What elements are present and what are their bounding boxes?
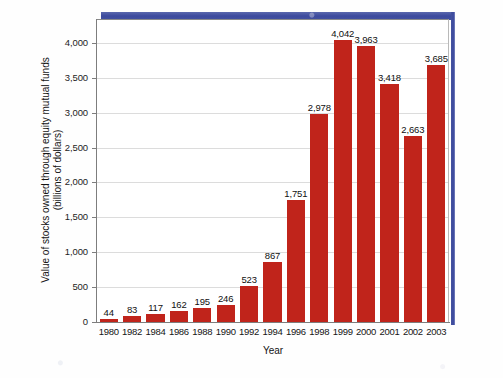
- y-tick-mark: [92, 287, 96, 288]
- bar-value-label: 246: [206, 293, 245, 304]
- bar: [404, 136, 422, 322]
- bar: [380, 84, 398, 322]
- y-axis-title: Value of stocks owned through equity mut…: [40, 20, 64, 320]
- bar: [287, 200, 305, 322]
- bar-value-label: 3,685: [417, 53, 456, 64]
- y-axis-title-line2: (billions of dollars): [52, 20, 64, 320]
- x-axis-line: [96, 322, 450, 323]
- bar: [193, 308, 211, 322]
- y-tick-mark: [92, 322, 96, 323]
- bar-value-label: 3,963: [346, 34, 385, 45]
- bar: [217, 305, 235, 322]
- x-tick-label: 2003: [420, 326, 453, 337]
- bar: [334, 40, 352, 322]
- gridline: [97, 43, 448, 44]
- x-axis-title: Year: [96, 345, 450, 356]
- y-tick-mark: [92, 113, 96, 114]
- bar-value-label: 1,751: [276, 188, 315, 199]
- plot-area: [97, 22, 448, 322]
- bar-value-label: 2,663: [393, 124, 432, 135]
- bar-value-label: 867: [253, 250, 292, 261]
- y-tick-mark: [92, 217, 96, 218]
- bar-value-label: 523: [229, 274, 268, 285]
- y-tick-mark: [92, 43, 96, 44]
- bar-value-label: 2,978: [300, 102, 339, 113]
- y-tick-mark: [92, 252, 96, 253]
- chart-figure: 05001,0001,5002,0002,5003,0003,5004,000 …: [0, 0, 503, 378]
- bar: [357, 46, 375, 322]
- bar: [263, 262, 281, 322]
- y-tick-mark: [92, 78, 96, 79]
- y-tick-mark: [92, 148, 96, 149]
- y-axis-title-line1: Value of stocks owned through equity mut…: [40, 57, 51, 283]
- bar: [427, 65, 445, 322]
- y-tick-mark: [92, 182, 96, 183]
- y-axis-line: [96, 19, 97, 323]
- bar: [310, 114, 328, 322]
- bar-value-label: 3,418: [370, 72, 409, 83]
